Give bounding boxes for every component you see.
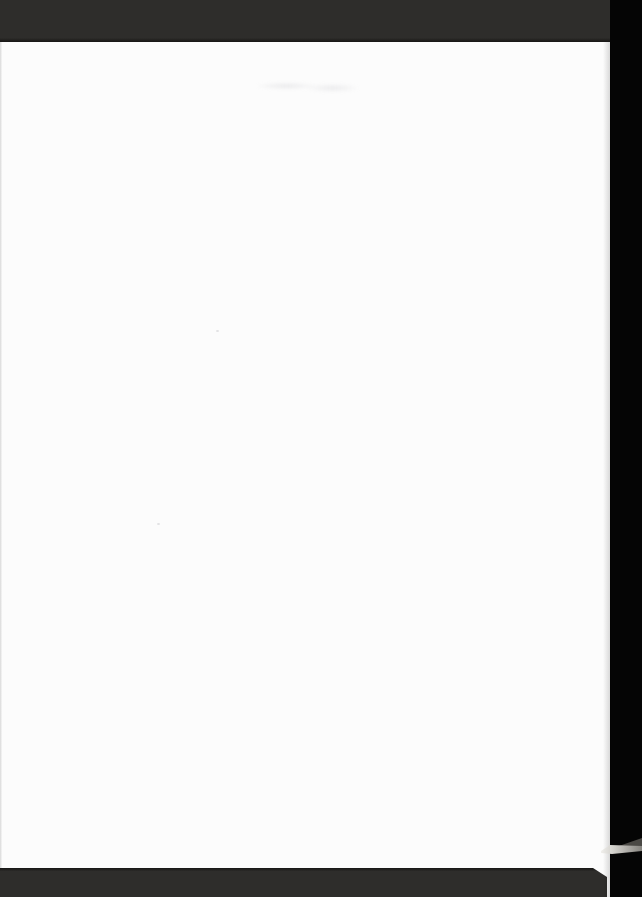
dust-speck <box>216 330 219 332</box>
page-right-edge-shadow <box>603 42 611 897</box>
right-black-strip <box>610 0 642 897</box>
dust-speck <box>157 523 160 525</box>
wedge-paper-shape <box>601 845 642 854</box>
top-scanner-band <box>0 0 611 42</box>
page-left-edge-shadow <box>0 42 2 868</box>
ink-bleed-smudge <box>252 77 367 97</box>
bottom-scanner-band <box>0 868 607 897</box>
scanned-document <box>0 0 642 897</box>
blank-page <box>0 42 611 897</box>
page-corner-curl <box>601 836 642 858</box>
